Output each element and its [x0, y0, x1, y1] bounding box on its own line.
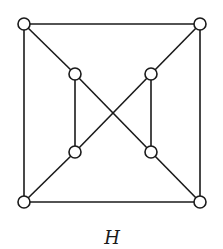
node-outer-top-left [18, 18, 30, 30]
graph-label: H [103, 227, 120, 248]
graph-edges [24, 24, 200, 202]
graph-diagram: H [0, 0, 223, 249]
node-outer-bottom-right [194, 196, 206, 208]
node-inner-bottom-right [145, 146, 157, 158]
node-inner-top-right [145, 68, 157, 80]
edge-outer-top-right-to-inner-top-right [151, 24, 200, 74]
node-outer-bottom-left [18, 196, 30, 208]
node-inner-bottom-left [69, 146, 81, 158]
edge-outer-bottom-right-to-inner-bottom-right [151, 152, 200, 202]
edge-outer-bottom-left-to-inner-bottom-left [24, 152, 75, 202]
edge-outer-top-left-to-inner-top-left [24, 24, 75, 74]
node-inner-top-left [69, 68, 81, 80]
node-outer-top-right [194, 18, 206, 30]
